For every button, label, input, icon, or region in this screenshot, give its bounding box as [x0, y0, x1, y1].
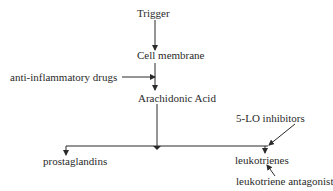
node-leukotriene-antagonist: leukotriene antagonist — [236, 175, 333, 187]
node-prostaglandins: prostaglandins — [43, 155, 107, 167]
node-5lo-inhibitors: 5-LO inhibitors — [236, 112, 305, 124]
node-trigger: Trigger — [137, 7, 170, 19]
branch-node-icon — [153, 146, 161, 150]
arrow-5lo-inhibitors — [269, 124, 295, 145]
node-arachidonic-acid: Arachidonic Acid — [138, 92, 216, 104]
node-anti-inflammatory-drugs: anti-inflammatory drugs — [10, 71, 117, 83]
node-cell-membrane: Cell membrane — [137, 49, 205, 61]
node-leukotrienes: leukotrienes — [235, 154, 289, 166]
